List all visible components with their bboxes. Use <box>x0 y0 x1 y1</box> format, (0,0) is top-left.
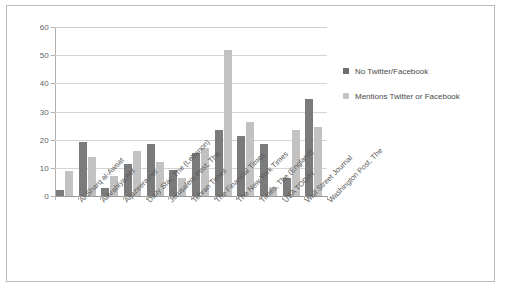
y-axis-tick-label: 50 <box>40 51 49 60</box>
y-axis-tick-label: 60 <box>40 23 49 32</box>
chart-frame: 6050403020100 Al-Sharq al-AwsatAlArabiya… <box>6 5 495 282</box>
y-axis-tick-label: 20 <box>40 135 49 144</box>
legend-label: No Twitter/Facebook <box>355 66 483 77</box>
y-axis-labels: 6050403020100 <box>21 27 49 196</box>
y-axis-tick-label: 0 <box>44 192 49 201</box>
y-axis-tick-label: 40 <box>40 79 49 88</box>
legend-item[interactable]: Mentions Twitter or Facebook <box>343 91 483 102</box>
bar[interactable] <box>65 171 73 196</box>
legend-swatch-icon <box>343 93 349 99</box>
bar-group[interactable] <box>78 27 101 196</box>
chart-legend: No Twitter/FacebookMentions Twitter or F… <box>343 66 483 116</box>
legend-label: Mentions Twitter or Facebook <box>355 91 483 102</box>
x-axis-category-labels: Al-Sharq al-AwsatAlArabiya.netAljazeera.… <box>55 198 345 284</box>
bar[interactable] <box>215 130 223 196</box>
bar-group[interactable] <box>55 27 78 196</box>
legend-swatch-icon <box>343 68 349 74</box>
legend-item[interactable]: No Twitter/Facebook <box>343 66 483 77</box>
y-axis-tick-label: 10 <box>40 163 49 172</box>
y-axis-tick-label: 30 <box>40 107 49 116</box>
